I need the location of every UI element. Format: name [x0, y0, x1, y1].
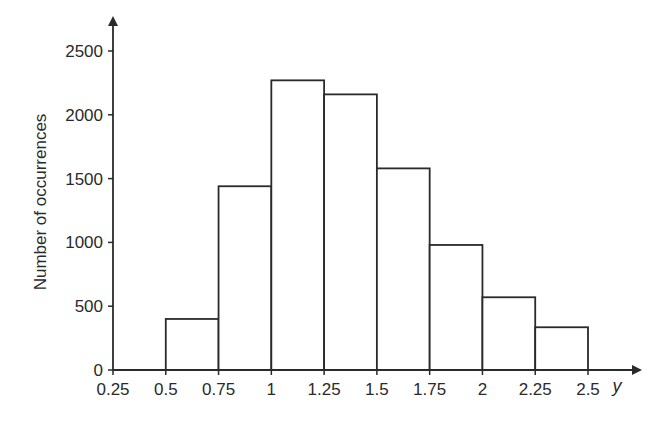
x-tick-label: 1.25 — [308, 380, 341, 399]
histogram-bar — [482, 297, 535, 370]
x-tick-label: 0.75 — [202, 380, 235, 399]
y-tick-label: 2000 — [65, 106, 103, 125]
x-tick-label: 2.5 — [576, 380, 600, 399]
histogram-bar — [324, 94, 377, 370]
x-axis-title: y — [611, 376, 623, 396]
x-tick-label: 2.25 — [519, 380, 552, 399]
y-axis-ticks: 05001000150020002500 — [65, 42, 113, 380]
x-tick-label: 0.5 — [154, 380, 178, 399]
x-tick-label: 2 — [478, 380, 487, 399]
histogram-chart: 05001000150020002500 0.250.50.7511.251.5… — [0, 0, 668, 428]
y-tick-label: 500 — [75, 297, 103, 316]
y-tick-label: 2500 — [65, 42, 103, 61]
histogram-bar — [377, 168, 430, 370]
x-tick-label: 1 — [267, 380, 276, 399]
y-tick-label: 0 — [94, 361, 103, 380]
x-tick-label: 0.25 — [96, 380, 129, 399]
x-tick-label: 1.75 — [413, 380, 446, 399]
y-tick-label: 1500 — [65, 170, 103, 189]
histogram-bars — [166, 80, 588, 370]
x-tick-label: 1.5 — [365, 380, 389, 399]
histogram-bar — [430, 245, 483, 370]
y-axis-title: Number of occurrences — [31, 114, 50, 291]
y-tick-label: 1000 — [65, 233, 103, 252]
histogram-bar — [271, 80, 324, 370]
histogram-bar — [219, 186, 272, 370]
x-axis-ticks: 0.250.50.7511.251.51.7522.252.5 — [96, 370, 599, 399]
histogram-bar — [166, 319, 219, 370]
histogram-bar — [535, 327, 588, 370]
